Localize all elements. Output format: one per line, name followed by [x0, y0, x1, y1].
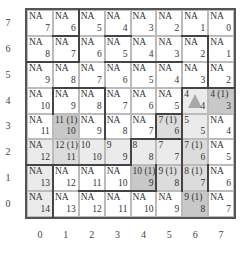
wall-horizontal — [52, 164, 132, 166]
cell-value: 6 — [175, 126, 180, 137]
grid-cell: NA12 — [27, 139, 53, 165]
y-axis-label: 3 — [2, 120, 14, 131]
x-axis-label: 3 — [112, 229, 124, 240]
cell-value: 7 — [123, 101, 128, 112]
cell-q-label: 7 — [158, 140, 163, 151]
cell-q-label: NA — [55, 192, 69, 203]
cell-value: 6 — [71, 23, 76, 34]
y-axis-label: 7 — [2, 17, 14, 28]
cell-q-label: NA — [184, 11, 198, 22]
x-axis-label: 7 — [215, 229, 227, 240]
cell-q-label: 8 (1) — [184, 166, 202, 177]
wall-vertical — [207, 35, 209, 89]
cell-q-label: NA — [81, 89, 95, 100]
cell-q-label: 12 (1) — [55, 140, 78, 151]
grid-cell: NA10 — [27, 88, 53, 114]
cell-value: 10 — [92, 152, 102, 163]
cell-value: 2 — [226, 75, 231, 86]
cell-value: 12 — [40, 152, 50, 163]
cell-value: 4 — [200, 101, 205, 112]
cell-value: 5 — [149, 75, 154, 86]
grid-cell: NA6 — [131, 88, 157, 114]
grid-cell: NA8 — [53, 62, 79, 88]
cell-q-label: NA — [55, 166, 69, 177]
grid-cell: NA7 — [53, 36, 79, 62]
grid-cell: NA6 — [105, 62, 131, 88]
cell-value: 5 — [123, 49, 128, 60]
cell-value: 13 — [40, 178, 50, 189]
cell-q-label: 7 (1) — [158, 115, 176, 126]
grid-cell: NA13 — [27, 165, 53, 191]
grid-cell: NA8 — [79, 88, 105, 114]
cell-q-label: NA — [210, 63, 224, 74]
cell-q-label: NA — [133, 192, 147, 203]
cell-q-label: NA — [29, 192, 43, 203]
cell-q-label: NA — [107, 37, 121, 48]
grid-cell: NA11 — [105, 191, 131, 217]
grid-cell: NA12 — [79, 191, 105, 217]
grid-cell: NA3 — [156, 36, 182, 62]
cell-value: 3 — [226, 101, 231, 112]
grid-cell: NA0 — [208, 10, 234, 36]
cell-q-label: NA — [29, 63, 43, 74]
cell-q-label: 5 — [184, 115, 189, 126]
cell-value: 6 — [226, 178, 231, 189]
cell-q-label: NA — [133, 89, 147, 100]
x-axis-label: 4 — [137, 229, 149, 240]
grid-cell: NA13 — [53, 191, 79, 217]
cell-q-label: NA — [81, 63, 95, 74]
cell-value: 9 — [71, 101, 76, 112]
cell-q-label: NA — [55, 89, 69, 100]
cell-q-label: NA — [81, 11, 95, 22]
cell-q-label: NA — [81, 166, 95, 177]
cell-q-label: 11 (1) — [55, 115, 78, 126]
cell-value: 7 — [45, 23, 50, 34]
grid-cell: 9 (1)8 — [156, 165, 182, 191]
grid-cell: NA10 — [131, 191, 157, 217]
cell-value: 4 — [149, 49, 154, 60]
wall-vertical — [78, 9, 80, 63]
grid-cell: NA14 — [27, 191, 53, 217]
cell-value: 8 — [149, 152, 154, 163]
cell-value: 8 — [45, 49, 50, 60]
grid-cell: NA3 — [131, 10, 157, 36]
cell-value: 11 — [67, 152, 76, 163]
cell-q-label: NA — [29, 166, 43, 177]
wall-vertical — [181, 87, 183, 141]
cell-q-label: NA — [210, 11, 224, 22]
x-axis-label: 0 — [34, 229, 46, 240]
cell-value: 9 — [97, 126, 102, 137]
cell-value: 10 — [118, 178, 128, 189]
cell-value: 10 — [40, 101, 50, 112]
cell-value: 4 — [123, 23, 128, 34]
wall-vertical — [181, 138, 183, 192]
cell-q-label: NA — [158, 192, 172, 203]
cell-q-label: 10 (1) — [133, 166, 156, 177]
cell-value: 2 — [175, 23, 180, 34]
cell-q-label: NA — [158, 37, 172, 48]
cell-value: 5 — [226, 152, 231, 163]
grid-cell: NA4 — [105, 10, 131, 36]
cell-value: 8 — [71, 75, 76, 86]
cell-value: 0 — [226, 23, 231, 34]
cell-value: 1 — [200, 23, 205, 34]
cell-value: 7 — [149, 126, 154, 137]
cell-value: 6 — [123, 75, 128, 86]
cell-q-label: NA — [81, 192, 95, 203]
x-axis-label: 1 — [60, 229, 72, 240]
cell-value: 9 — [45, 75, 50, 86]
grid-cell: NA2 — [208, 62, 234, 88]
grid-cell: NA9 — [79, 114, 105, 140]
y-axis-label: 0 — [2, 198, 14, 209]
cell-q-label: NA — [210, 140, 224, 151]
cell-q-label: NA — [158, 11, 172, 22]
grid-cell: NA3 — [182, 62, 208, 88]
grid-cell: NA6 — [208, 165, 234, 191]
cell-q-label: NA — [158, 63, 172, 74]
wall-horizontal — [181, 35, 209, 37]
cell-value: 5 — [97, 23, 102, 34]
wall-vertical — [155, 113, 157, 141]
cell-value: 7 — [97, 75, 102, 86]
cell-q-label: NA — [55, 63, 69, 74]
wall-vertical — [52, 164, 54, 218]
